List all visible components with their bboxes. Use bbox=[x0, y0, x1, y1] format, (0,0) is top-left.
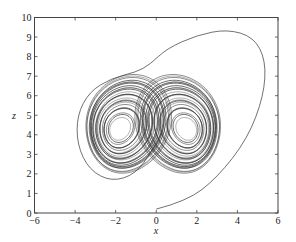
y-tick-label: 2 bbox=[27, 168, 32, 179]
x-tick-label: 2 bbox=[194, 215, 199, 226]
trajectory bbox=[77, 31, 265, 209]
right-lobe-loop bbox=[176, 118, 197, 141]
axis-ticks bbox=[35, 18, 279, 214]
plot-frame bbox=[35, 18, 279, 214]
y-tick-label: 1 bbox=[27, 188, 32, 199]
y-tick-label: 7 bbox=[27, 71, 32, 82]
y-tick-label: 9 bbox=[27, 32, 32, 43]
y-axis-label: z bbox=[11, 110, 16, 121]
left-lobe-loop bbox=[110, 118, 131, 141]
y-tick-label: 3 bbox=[27, 149, 32, 160]
x-tick-label: −2 bbox=[110, 215, 121, 226]
y-tick-label: 4 bbox=[27, 129, 32, 140]
tick-labels: −6−4−20246012345678910 bbox=[22, 12, 281, 226]
x-tick-label: −4 bbox=[70, 215, 81, 226]
x-axis-label: x bbox=[153, 225, 159, 236]
x-tick-label: 4 bbox=[235, 215, 240, 226]
y-tick-label: 8 bbox=[27, 51, 32, 62]
attractor-chart: −6−4−20246012345678910 x z bbox=[0, 0, 296, 242]
y-tick-label: 0 bbox=[27, 208, 32, 219]
y-tick-label: 6 bbox=[27, 90, 32, 101]
x-tick-label: 6 bbox=[276, 215, 281, 226]
y-tick-label: 10 bbox=[22, 12, 32, 23]
y-tick-label: 5 bbox=[27, 110, 32, 121]
